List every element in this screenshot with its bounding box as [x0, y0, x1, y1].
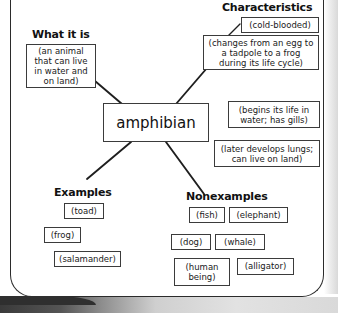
heading-examples: Examples [54, 186, 112, 199]
heading-nonexamples: Nonexamples [186, 190, 268, 203]
box-definition[interactable]: (an animal that can live in water and on… [26, 44, 96, 88]
page-edge-shading [324, 0, 338, 294]
box-lungs[interactable]: (later develops lungs; can live on land) [214, 140, 320, 167]
concept-map-page: What it is Characteristics Examples None… [0, 0, 338, 313]
heading-what-it-is: What it is [32, 28, 90, 41]
box-dog[interactable]: (dog) [171, 234, 211, 250]
box-life-cycle[interactable]: (changes from an egg to a tadpole to a f… [203, 35, 319, 70]
box-elephant[interactable]: (elephant) [229, 207, 288, 223]
box-toad[interactable]: (toad) [64, 203, 104, 219]
box-human-being[interactable]: (human being) [174, 258, 230, 286]
box-whale[interactable]: (whale) [215, 234, 265, 250]
center-term-box[interactable]: amphibian [103, 103, 209, 142]
box-alligator[interactable]: (alligator) [237, 258, 294, 275]
box-cold-blooded[interactable]: (cold-blooded) [241, 17, 319, 33]
box-fish[interactable]: (fish) [189, 207, 225, 223]
box-frog[interactable]: (frog) [44, 227, 81, 243]
scan-artifact [0, 297, 338, 313]
heading-characteristics: Characteristics [222, 1, 312, 14]
box-salamander[interactable]: (salamander) [54, 251, 121, 267]
box-gills[interactable]: (begins its life in water; has gills) [228, 101, 320, 128]
